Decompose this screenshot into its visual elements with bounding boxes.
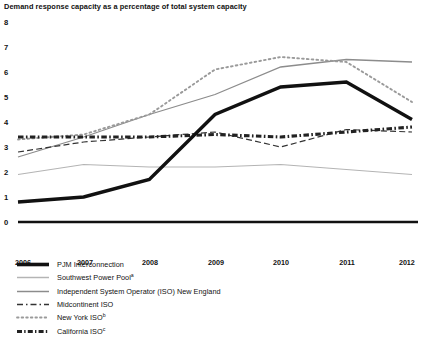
legend-label-southwest-power-pool: Southwest Power Poola — [57, 273, 134, 282]
legend-swatch-iso-new-england — [16, 286, 50, 297]
legend-item-california-iso: California ISOc — [16, 324, 316, 337]
legend-swatch-california-iso — [16, 326, 50, 337]
legend-item-midcontinent-iso: Midcontinent ISO — [16, 298, 316, 311]
legend-item-pjm-interconnection: PJM Interconnection — [16, 258, 316, 271]
chart-title: Demand response capacity as a percentage… — [4, 2, 247, 11]
chart-figure: Demand response capacity as a percentage… — [0, 0, 426, 342]
series-line-independent-system-operator-iso-new-england — [18, 60, 412, 158]
legend-item-iso-new-england: Independent System Operator (ISO) New En… — [16, 285, 316, 298]
series-line-pjm-interconnection — [18, 82, 412, 202]
legend-label-pjm-interconnection: PJM Interconnection — [57, 260, 124, 269]
series-group — [18, 57, 412, 202]
chart-legend: PJM Interconnection Southwest Power Pool… — [16, 258, 316, 338]
legend-swatch-midcontinent-iso — [16, 299, 50, 310]
legend-item-new-york-iso: New York ISOb — [16, 311, 316, 324]
chart-plot-svg — [0, 16, 426, 254]
series-line-southwest-power-pool — [18, 165, 412, 175]
legend-swatch-pjm-interconnection — [16, 259, 50, 270]
x-axis-tick-2012: 2012 — [399, 258, 415, 267]
legend-label-california-iso: California ISOc — [57, 327, 105, 336]
legend-label-iso-new-england: Independent System Operator (ISO) New En… — [57, 287, 221, 296]
series-line-new-york-iso — [18, 57, 412, 140]
legend-swatch-southwest-power-pool — [16, 272, 50, 283]
legend-label-new-york-iso: New York ISOb — [57, 313, 106, 322]
plot-area: 8 7 6 5 4 3 2 1 0 2006 2007 2008 2009 20… — [0, 16, 426, 238]
legend-label-midcontinent-iso: Midcontinent ISO — [57, 300, 113, 309]
legend-swatch-new-york-iso — [16, 312, 50, 323]
legend-item-southwest-power-pool: Southwest Power Poola — [16, 271, 316, 284]
x-axis-tick-2011: 2011 — [339, 258, 355, 267]
